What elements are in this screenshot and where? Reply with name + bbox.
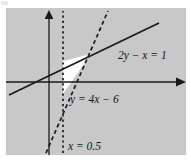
label-dashed-line: y = 4x − 6 [69,93,119,106]
math-figure: 2y − x = 1 y = 4x − 6 x = 0.5 [0,0,191,161]
coordinate-plane-svg: 2y − x = 1 y = 4x − 6 x = 0.5 [0,0,191,161]
corner-artifact [1,1,8,5]
label-solid-line: 2y − x = 1 [118,49,167,62]
label-dotted-line: x = 0.5 [67,140,101,152]
